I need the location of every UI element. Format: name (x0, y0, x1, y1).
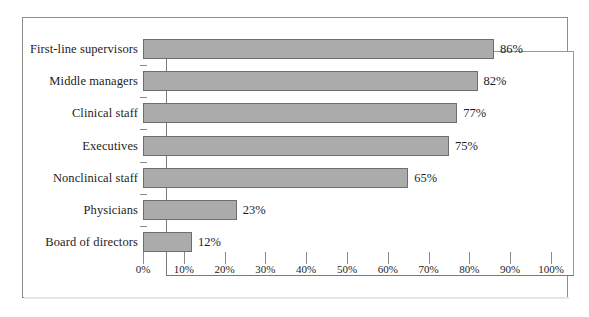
bar (143, 103, 457, 123)
category-label: Nonclinical staff (0, 172, 138, 185)
bar (143, 168, 408, 188)
y-axis-tick (140, 162, 147, 163)
bar (143, 232, 192, 252)
category-label: Board of directors (0, 236, 138, 249)
bar (143, 200, 237, 220)
category-label: Physicians (0, 204, 138, 217)
bar (143, 71, 478, 91)
y-axis-tick (140, 226, 147, 227)
bar-value-label: 86% (500, 43, 523, 56)
x-axis-tick-label: 70% (406, 264, 452, 275)
y-axis-tick (140, 97, 147, 98)
bar-value-label: 65% (414, 172, 437, 185)
bar-value-label: 23% (243, 204, 266, 217)
x-axis-tick-label: 50% (324, 264, 370, 275)
x-axis-tick-label: 60% (365, 264, 411, 275)
bar-value-label: 12% (198, 236, 221, 249)
x-axis-tick-label: 40% (283, 264, 329, 275)
x-axis-tick-label: 20% (202, 264, 248, 275)
category-label: Middle managers (0, 75, 138, 88)
x-axis-tick-label: 10% (161, 264, 207, 275)
y-axis-tick (140, 194, 147, 195)
y-axis-tick (140, 129, 147, 130)
chart-screenshot: First-line supervisors86%Middle managers… (0, 0, 589, 317)
page-frame (22, 17, 568, 298)
x-axis-tick-label: 100% (528, 264, 574, 275)
category-label: First-line supervisors (0, 43, 138, 56)
y-axis-tick (140, 65, 147, 66)
category-label: Clinical staff (0, 107, 138, 120)
x-axis-tick-label: 80% (446, 264, 492, 275)
x-axis-tick-label: 90% (487, 264, 533, 275)
bar-value-label: 82% (484, 75, 507, 88)
bar (143, 39, 494, 59)
x-axis-tick-label: 0% (120, 264, 166, 275)
bar-value-label: 75% (455, 140, 478, 153)
category-label: Executives (0, 140, 138, 153)
bar (143, 136, 449, 156)
x-axis-tick-label: 30% (242, 264, 288, 275)
bar-value-label: 77% (463, 107, 486, 120)
